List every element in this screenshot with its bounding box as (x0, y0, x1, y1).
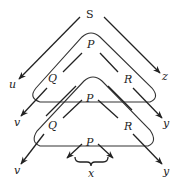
node-p1-label: P (86, 38, 95, 51)
node-p2-label: P (85, 92, 94, 105)
edge-p2-r2 (98, 100, 118, 118)
brace (75, 157, 108, 166)
output-y2-label: y (162, 165, 170, 178)
arrow-s-to-z (104, 17, 160, 73)
node-q1-label: Q (48, 72, 57, 85)
node-r2-label: R (123, 120, 132, 133)
edge-loop1-left-through (46, 86, 76, 116)
node-p3-label: P (85, 136, 94, 149)
output-v2-label: v (14, 164, 21, 177)
output-z-label: z (161, 70, 168, 83)
node-r1-label: R (123, 73, 132, 86)
output-v1-label: v (14, 116, 21, 129)
arrow-q2-to-v (21, 134, 44, 164)
edge-p1-q1 (63, 53, 82, 72)
arrow-r2-to-y (133, 134, 162, 164)
node-q2-label: Q (48, 119, 57, 132)
edge-loop1-right-through (108, 86, 132, 110)
tree-diagram: S u z P Q R v y P Q R v y P x (0, 0, 180, 184)
loop-level-2 (34, 77, 153, 146)
arrow-s-to-u (19, 17, 80, 79)
output-y1-label: y (162, 117, 170, 130)
arrow-r1-to-y (133, 88, 162, 118)
output-u-label: u (9, 78, 16, 91)
output-x-label: x (88, 167, 95, 180)
edge-p2-q2 (63, 100, 82, 118)
node-s-label: S (86, 8, 94, 21)
edge-p1-r1 (100, 53, 118, 72)
